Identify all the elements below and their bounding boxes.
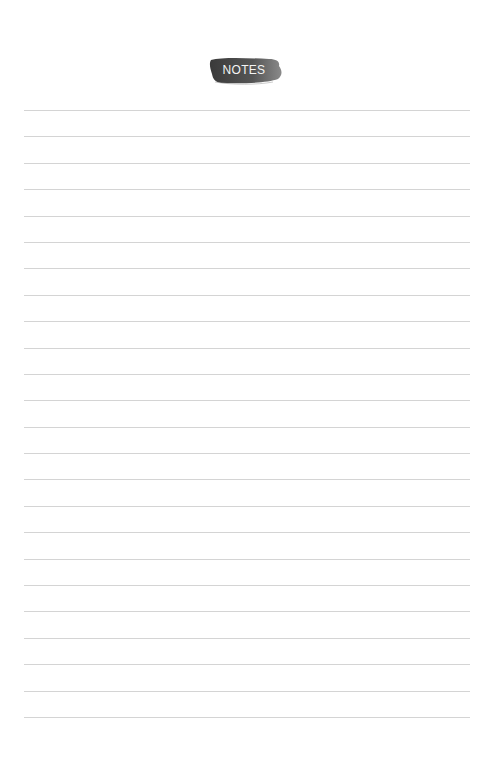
page-title: NOTES: [207, 56, 281, 84]
ruled-line: [24, 691, 470, 692]
ruled-line: [24, 506, 470, 507]
ruled-line: [24, 532, 470, 533]
ruled-line: [24, 664, 470, 665]
ruled-line: [24, 585, 470, 586]
ruled-line: [24, 453, 470, 454]
ruled-line: [24, 638, 470, 639]
ruled-line: [24, 400, 470, 401]
ruled-line: [24, 717, 470, 718]
ruled-line: [24, 268, 470, 269]
ruled-line: [24, 110, 470, 111]
ruled-line: [24, 479, 470, 480]
ruled-line: [24, 321, 470, 322]
ruled-line: [24, 611, 470, 612]
ruled-line: [24, 136, 470, 137]
ruled-line: [24, 427, 470, 428]
ruled-line: [24, 559, 470, 560]
ruled-line: [24, 348, 470, 349]
ruled-line: [24, 242, 470, 243]
ruled-line: [24, 189, 470, 190]
ruled-line: [24, 216, 470, 217]
ruled-line: [24, 163, 470, 164]
notes-title-banner: NOTES: [207, 56, 285, 86]
ruled-line: [24, 374, 470, 375]
ruled-line: [24, 295, 470, 296]
